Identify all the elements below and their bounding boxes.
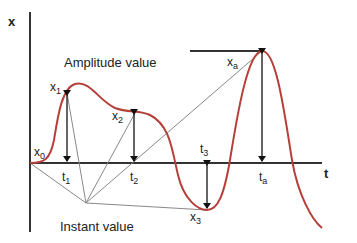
y-axis-label: x xyxy=(8,14,16,29)
label-x1: x1 xyxy=(50,80,61,96)
label-x0: x0 xyxy=(34,145,45,161)
label-x2: x2 xyxy=(112,109,123,125)
label-ta: ta xyxy=(259,170,267,186)
signal-diagram: x t Amplitude value Instant value x0 x1 … xyxy=(0,0,357,243)
label-t2: t2 xyxy=(130,170,138,186)
t-axis-label: t xyxy=(324,166,329,181)
label-t1: t1 xyxy=(62,170,70,186)
label-t3: t3 xyxy=(200,142,208,158)
instant-value-guides xyxy=(30,51,262,210)
label-xa: xa xyxy=(227,55,238,71)
instant-value-label: Instant value xyxy=(60,219,134,234)
amplitude-value-label: Amplitude value xyxy=(64,55,157,70)
label-x3: x3 xyxy=(190,210,201,226)
signal-curve xyxy=(30,51,322,228)
